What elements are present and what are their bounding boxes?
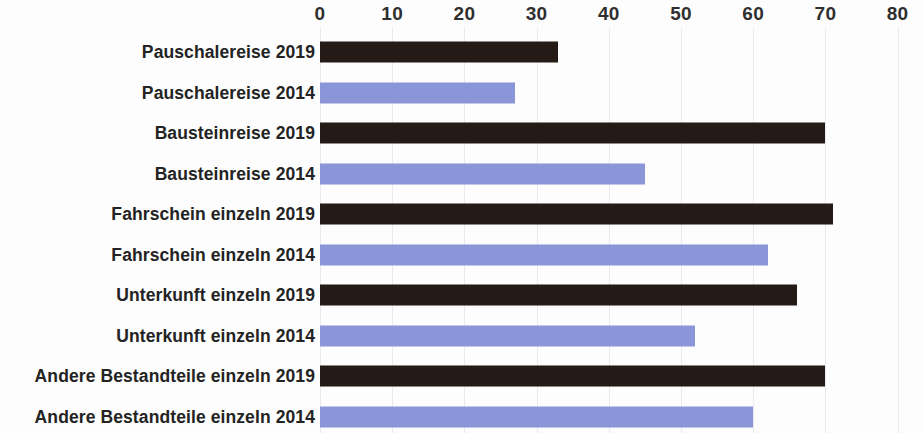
plot-area: Pauschalereise 2019Pauschalereise 2014Ba…: [0, 28, 923, 433]
x-axis-tick-label: 0: [315, 3, 326, 25]
category-label: Pauschalereise 2014: [142, 82, 315, 103]
bar-row: Unterkunft einzeln 2014: [0, 316, 923, 357]
bar: [320, 406, 753, 427]
bar: [320, 82, 515, 103]
bar-chart: 01020304050607080 Pauschalereise 2019Pau…: [0, 0, 923, 433]
x-axis-tick-label: 20: [454, 3, 476, 25]
bar: [320, 204, 833, 225]
x-axis: 01020304050607080: [0, 0, 923, 30]
bar-row: Andere Bestandteile einzeln 2019: [0, 356, 923, 397]
x-axis-tick-label: 10: [381, 3, 403, 25]
bar: [320, 123, 825, 144]
category-label: Fahrschein einzeln 2019: [111, 204, 315, 225]
category-label: Pauschalereise 2019: [142, 42, 315, 63]
category-label: Fahrschein einzeln 2014: [111, 244, 315, 265]
bar: [320, 244, 768, 265]
x-axis-tick-label: 50: [670, 3, 692, 25]
bar-row: Pauschalereise 2019: [0, 32, 923, 73]
bar-row: Bausteinreise 2014: [0, 154, 923, 195]
category-label: Bausteinreise 2014: [155, 163, 315, 184]
x-axis-tick-label: 30: [526, 3, 548, 25]
bar-row: Fahrschein einzeln 2019: [0, 194, 923, 235]
bar: [320, 325, 695, 346]
bar-row: Pauschalereise 2014: [0, 73, 923, 114]
bar-row: Bausteinreise 2019: [0, 113, 923, 154]
category-label: Bausteinreise 2019: [155, 123, 315, 144]
category-label: Unterkunft einzeln 2019: [116, 285, 315, 306]
bar-row: Unterkunft einzeln 2019: [0, 275, 923, 316]
x-axis-tick-label: 70: [815, 3, 837, 25]
bar: [320, 42, 558, 63]
x-axis-tick-label: 80: [887, 3, 909, 25]
x-axis-tick-label: 40: [598, 3, 620, 25]
category-label: Andere Bestandteile einzeln 2019: [35, 366, 315, 387]
bar: [320, 366, 825, 387]
bar: [320, 285, 797, 306]
x-axis-tick-label: 60: [742, 3, 764, 25]
bar: [320, 163, 645, 184]
category-label: Unterkunft einzeln 2014: [116, 325, 315, 346]
bar-row: Andere Bestandteile einzeln 2014: [0, 397, 923, 433]
category-label: Andere Bestandteile einzeln 2014: [35, 406, 315, 427]
bar-row: Fahrschein einzeln 2014: [0, 235, 923, 276]
